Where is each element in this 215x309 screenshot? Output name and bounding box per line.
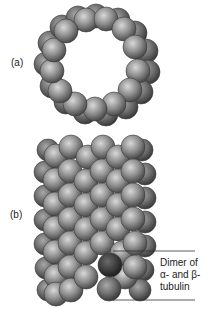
microtubule-side-view xyxy=(34,135,156,306)
callout-line2: α- and β- xyxy=(160,269,200,281)
callout-line3: tubulin xyxy=(160,281,200,293)
callout-line1: Dimer of xyxy=(160,257,200,269)
panel-a-label: (a) xyxy=(11,57,23,68)
dimer-callout: Dimer of α- and β- tubulin xyxy=(160,257,200,293)
panel-b-label: (b) xyxy=(10,209,22,220)
microtubule-cross-section xyxy=(34,4,160,126)
